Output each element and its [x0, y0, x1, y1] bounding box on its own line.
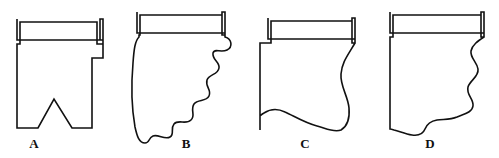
- shape-outline-a: [17, 19, 103, 128]
- shape-outline-c: [260, 18, 355, 131]
- shapes-diagram: [0, 0, 499, 158]
- panel-label-b: B: [174, 136, 198, 152]
- shape-group-c: [260, 18, 355, 131]
- shape-outline-d: [390, 12, 484, 135]
- shape-group-b: [132, 12, 231, 143]
- panel-label-c: C: [293, 136, 317, 152]
- panel-label-a: A: [22, 136, 46, 152]
- panel-label-d: D: [418, 136, 442, 152]
- figure-container: A B C D: [0, 0, 499, 158]
- shape-outline-b: [132, 12, 231, 143]
- shape-group-a: [17, 19, 103, 128]
- shape-group-d: [390, 12, 484, 135]
